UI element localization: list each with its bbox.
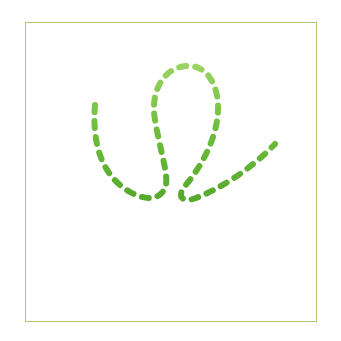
card-frame-border (25, 22, 317, 322)
page-title: Cursive Loop Tracing Practice Card (0, 21, 1, 22)
tracing-worksheet-card: Cursive Loop Tracing Practice Card (0, 0, 341, 341)
